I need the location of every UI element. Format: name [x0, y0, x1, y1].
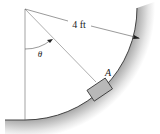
angle-arc: [25, 39, 53, 49]
dimension-label: 4 ft: [72, 19, 86, 30]
block-label: A: [104, 67, 112, 78]
angle-label: θ: [38, 49, 43, 59]
diagram-canvas: 4 ft θ A: [0, 0, 160, 134]
